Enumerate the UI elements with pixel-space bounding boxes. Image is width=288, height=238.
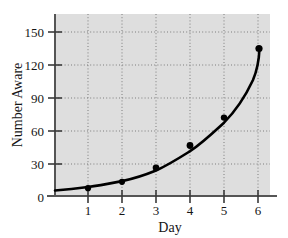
data-point-day-3	[153, 165, 160, 172]
y-tick-label-30: 30	[31, 157, 44, 172]
x-tick-label-1: 1	[85, 203, 92, 218]
data-point-day-4	[187, 142, 194, 149]
y-tick-label-120: 120	[25, 58, 45, 73]
x-axis-title: Day	[158, 220, 181, 235]
x-tick-label-6: 6	[255, 203, 262, 218]
y-tick-label-0: 0	[38, 190, 45, 205]
chart-figure: 150 120 90 60 30 0 1 2 3 4 5 6 Day Numbe…	[0, 0, 288, 238]
y-tick-label-90: 90	[31, 91, 44, 106]
data-point-day-5	[221, 114, 227, 120]
data-point-day-6	[255, 45, 262, 52]
x-tick-label-5: 5	[221, 203, 228, 218]
x-tick-label-2: 2	[119, 203, 126, 218]
y-tick-label-150: 150	[25, 25, 45, 40]
scatter-plot-svg: 150 120 90 60 30 0 1 2 3 4 5 6 Day Numbe…	[0, 0, 288, 238]
data-point-day-2	[119, 179, 125, 185]
data-point-day-1	[85, 185, 91, 191]
x-tick-label-4: 4	[187, 203, 194, 218]
y-axis-title: Number Aware	[10, 63, 25, 148]
x-tick-label-3: 3	[153, 203, 160, 218]
y-tick-label-60: 60	[31, 124, 44, 139]
